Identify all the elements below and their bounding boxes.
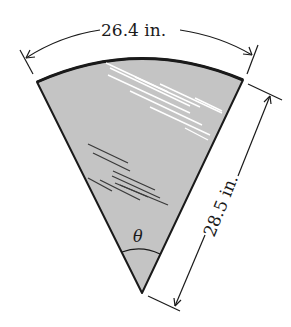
sector-shape (37, 58, 243, 293)
radius-label: 28.5 in. (199, 172, 242, 240)
arc-length-label: 26.4 in. (101, 20, 166, 40)
angle-label: θ (133, 227, 143, 246)
sector-diagram: θ 26.4 in. 28.5 in. (0, 0, 291, 327)
